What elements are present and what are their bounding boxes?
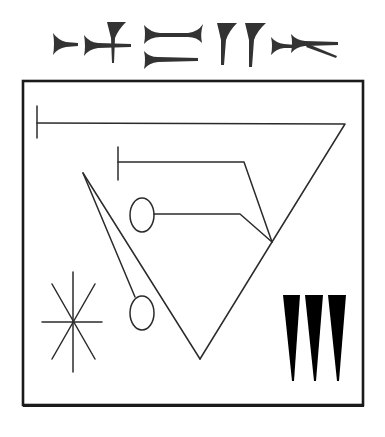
three-wedges-icon [283, 295, 346, 381]
diagram-canvas [0, 0, 385, 437]
